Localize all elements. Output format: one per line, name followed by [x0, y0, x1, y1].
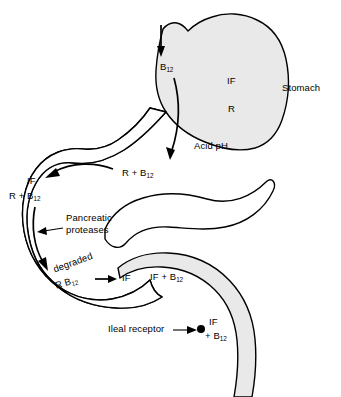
r-plus-b12-duodenum-text: R + B: [9, 190, 34, 201]
b12-entry-subscript: 12: [166, 66, 173, 73]
ileal-receptor-leader-head: [187, 326, 197, 334]
plus-b12-ileum-text: + B: [205, 330, 220, 341]
label-intrinsic-factor-stomach: IF: [227, 76, 236, 87]
label-stomach: Stomach: [282, 83, 320, 94]
if-plus-b12-jejunum-text: IF + B: [150, 271, 176, 282]
label-pancreatic-proteases: Pancreatic proteases: [66, 212, 112, 236]
ileal-receptor-dot: [197, 325, 205, 333]
pancreatic-proteases-leader-shaft: [44, 228, 63, 231]
label-if-plus-b12-jejunum: IF + B12: [150, 272, 183, 283]
b12-descent-arrow-head: [166, 147, 175, 160]
r-plus-b12-duodenum-subscript: 12: [34, 195, 41, 202]
r-plus-b12-stomach-subscript: 12: [147, 172, 154, 179]
gi-tract-illustration: [0, 0, 341, 397]
label-r-plus-b12-duodenum: R + B12: [9, 191, 40, 202]
label-plus-b12-ileum: + B12: [205, 331, 227, 342]
duodenum-transit-arrow-shaft: [54, 164, 113, 172]
label-r-protein-stomach: R: [228, 104, 235, 115]
pancreatic-proteases-line2: proteases: [66, 224, 109, 235]
pancreatic-protease-arrow-shaft: [33, 207, 43, 262]
if-plus-b12-jejunum-subscript: 12: [176, 276, 183, 283]
label-acid-ph: Acid pH: [194, 141, 228, 152]
r-plus-b12-stomach-text: R + B: [122, 167, 147, 178]
label-if-ileum: IF: [209, 317, 218, 328]
label-if-released: IF: [122, 273, 131, 284]
pancreatic-proteases-leader-head: [37, 227, 47, 235]
label-ileal-receptor: Ileal receptor: [108, 324, 164, 335]
degraded-r-b12-subscript: 12: [70, 278, 78, 287]
degradation-to-if-arrow-head: [108, 275, 117, 283]
label-if-duodenum: IF: [27, 176, 36, 187]
label-b12-entry: B12: [160, 62, 173, 73]
pancreas-outline: [105, 180, 274, 248]
plus-b12-ileum-subscript: 12: [220, 335, 227, 342]
label-r-plus-b12-stomach: R + B12: [122, 168, 153, 179]
pancreatic-proteases-line1: Pancreatic: [66, 212, 112, 223]
b12-absorption-diagram: B12 IF R Acid pH Stomach R + B12 IF R + …: [0, 0, 341, 397]
